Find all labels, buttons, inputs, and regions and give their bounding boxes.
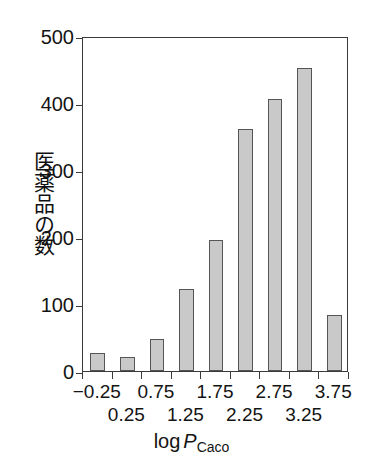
bar	[209, 240, 224, 371]
bar	[179, 289, 194, 371]
y-axis-tick	[76, 239, 83, 240]
x-axis-tick	[289, 372, 290, 379]
x-axis-tick	[230, 372, 231, 379]
bar	[327, 315, 342, 371]
x-axis-tick-label: 2.25	[226, 404, 263, 425]
bar	[120, 357, 135, 371]
x-axis-title-prefix: log	[154, 430, 181, 452]
y-axis-tick-label: 400	[26, 94, 74, 114]
x-axis-tick-labels: −0.250.751.752.753.750.251.252.253.25	[0, 381, 383, 433]
x-axis-title-subscript: Caco	[197, 439, 230, 455]
bar	[90, 353, 105, 371]
bar	[297, 68, 312, 371]
y-axis-tick	[76, 105, 83, 106]
x-axis-tick-label: 2.75	[256, 381, 293, 402]
x-axis-tick-label: −0.25	[73, 381, 121, 402]
y-axis-tick-label: 500	[26, 27, 74, 47]
x-axis-tick	[82, 372, 83, 379]
y-axis-tick	[76, 38, 83, 39]
x-axis-tick	[200, 372, 201, 379]
bar-series	[83, 38, 347, 371]
x-axis-tick	[259, 372, 260, 379]
x-axis-tick	[112, 372, 113, 379]
x-axis-tick	[348, 372, 349, 379]
x-axis-tick-label: 1.75	[197, 381, 234, 402]
y-axis-tick	[76, 172, 83, 173]
histogram-figure: 医薬品の数 5004003002001000 −0.250.751.752.75…	[0, 0, 383, 462]
x-axis-tick	[318, 372, 319, 379]
x-axis-tick-label: 3.25	[285, 404, 322, 425]
y-axis-tick-label: 100	[26, 295, 74, 315]
x-axis-tick	[171, 372, 172, 379]
y-axis-tick-label: 200	[26, 228, 74, 248]
y-axis-tick-label: 0	[26, 362, 74, 382]
x-axis-tick	[141, 372, 142, 379]
x-axis-title: logPCaco	[0, 430, 383, 458]
x-axis-tick-label: 0.25	[108, 404, 145, 425]
x-axis-tick-label: 3.75	[315, 381, 352, 402]
x-axis-tick-label: 1.25	[167, 404, 204, 425]
y-axis-tick	[76, 306, 83, 307]
y-axis-tick-label: 300	[26, 161, 74, 181]
x-axis-ticks	[82, 372, 348, 380]
plot-area	[82, 37, 348, 372]
bar	[268, 99, 283, 371]
bar	[238, 129, 253, 371]
x-axis-tick-label: 0.75	[137, 381, 174, 402]
x-axis-title-symbol: P	[180, 430, 196, 452]
bar	[150, 339, 165, 371]
